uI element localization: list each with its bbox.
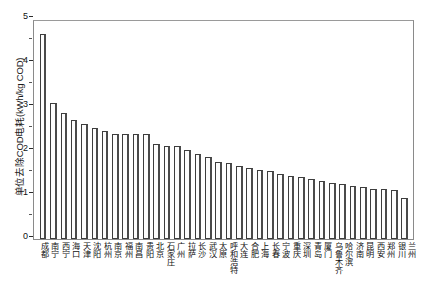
bar[interactable] [102,131,109,239]
x-axis-tick-label: 拉萨 [184,242,195,302]
bar[interactable] [267,171,274,239]
x-axis-tick: 沈阳 [90,242,101,302]
bar[interactable] [277,174,284,239]
x-axis-tick: 郑州 [384,242,395,302]
x-axis-tick-label: 哈尔滨 [342,242,353,302]
bar[interactable] [143,134,150,239]
bar[interactable] [288,176,295,239]
x-axis-tick-label: 南昌 [132,242,143,302]
bar[interactable] [339,184,346,239]
x-axis-tick-label: 沈阳 [90,242,101,302]
bar[interactable] [174,146,181,239]
bar-cell [214,21,224,239]
x-axis-tick-label: 深圳 [300,242,311,302]
bar-cell [286,21,296,239]
bar-cell [379,21,389,239]
x-axis-tick-label: 厦门 [321,242,332,302]
bar-cell [183,21,193,239]
y-axis-tick-label: 4 [2,55,28,65]
bar[interactable] [153,144,160,239]
x-axis-tick-label: 南京 [111,242,122,302]
x-axis-tick-label: 武汉 [205,242,216,302]
bar[interactable] [329,183,336,239]
x-axis-tick: 合肥 [247,242,258,302]
x-axis-tick: 南京 [111,242,122,302]
bar[interactable] [401,198,408,239]
x-axis-tick-label: 南宁 [48,242,59,302]
x-axis-tick: 昆明 [363,242,374,302]
y-axis-tick-label: 5 [2,11,28,21]
bar[interactable] [257,170,264,239]
bar[interactable] [50,103,57,239]
x-axis-tick-label: 成都 [37,242,48,302]
y-axis-minor-tick-mark [29,82,32,83]
y-axis-tick-label: 0 [2,231,28,241]
x-axis-tick-label: 广州 [174,242,185,302]
x-axis-tick: 重庆 [289,242,300,302]
bar[interactable] [236,166,243,239]
x-axis-tick-label: 呼和浩特 [226,242,237,302]
x-axis-tick: 西宁 [58,242,69,302]
x-axis-tick-label: 宁波 [279,242,290,302]
bar-cell [203,21,213,239]
x-axis-tick: 青岛 [310,242,321,302]
bar[interactable] [40,34,47,239]
x-axis-tick: 兰州 [405,242,416,302]
bar-cell [162,21,172,239]
bar-cell [69,21,79,239]
bar-cell [152,21,162,239]
bar-cell [255,21,265,239]
bar[interactable] [350,186,357,239]
bar[interactable] [205,157,212,239]
bar[interactable] [92,128,99,239]
bar-cell [369,21,379,239]
bar[interactable] [298,177,305,239]
bar[interactable] [360,187,367,239]
x-axis-tick: 成都 [37,242,48,302]
x-axis-tick-label: 西宁 [58,242,69,302]
bar[interactable] [246,168,253,239]
x-axis-tick: 海口 [69,242,80,302]
bar[interactable] [81,124,88,239]
bar[interactable] [391,190,398,239]
bar[interactable] [195,154,202,239]
bar-cell [265,21,275,239]
bar[interactable] [381,189,388,239]
x-axis-tick: 福州 [121,242,132,302]
bar[interactable] [122,134,129,239]
bar[interactable] [319,181,326,239]
x-axis-tick: 济南 [352,242,363,302]
y-axis-minor-tick-mark [29,126,32,127]
bar[interactable] [370,189,377,239]
x-axis-tick-label: 长春 [268,242,279,302]
x-axis-tick: 杭州 [100,242,111,302]
x-axis-tick-label: 乌鲁木齐 [331,242,342,302]
x-axis-tick: 贵阳 [142,242,153,302]
x-axis-tick-label: 青岛 [310,242,321,302]
bar[interactable] [184,150,191,239]
bar[interactable] [226,163,233,239]
x-axis-tick: 哈尔滨 [342,242,353,302]
x-axis-tick: 深圳 [300,242,311,302]
x-axis-tick-label: 大连 [237,242,248,302]
y-axis: 012345 [0,16,30,244]
x-axis-tick: 银川 [394,242,405,302]
x-axis-tick: 西安 [373,242,384,302]
bar-cell [307,21,317,239]
bar[interactable] [164,146,171,239]
bar[interactable] [112,134,119,239]
bar-cell [296,21,306,239]
x-axis-labels: 成都南宁西宁海口天津沈阳杭州南京福州南昌贵阳北京石家庄广州拉萨长沙武汉太原呼和浩… [33,242,414,302]
bar[interactable] [215,162,222,239]
bar-cell [338,21,348,239]
x-axis-tick: 厦门 [321,242,332,302]
x-axis-tick-label: 西安 [373,242,384,302]
bar-cell [59,21,69,239]
bar[interactable] [133,134,140,239]
x-axis-tick-label: 郑州 [384,242,395,302]
bar[interactable] [308,179,315,239]
bar-cell [399,21,409,239]
bar[interactable] [71,120,78,239]
x-axis-tick: 拉萨 [184,242,195,302]
bar[interactable] [61,113,68,239]
